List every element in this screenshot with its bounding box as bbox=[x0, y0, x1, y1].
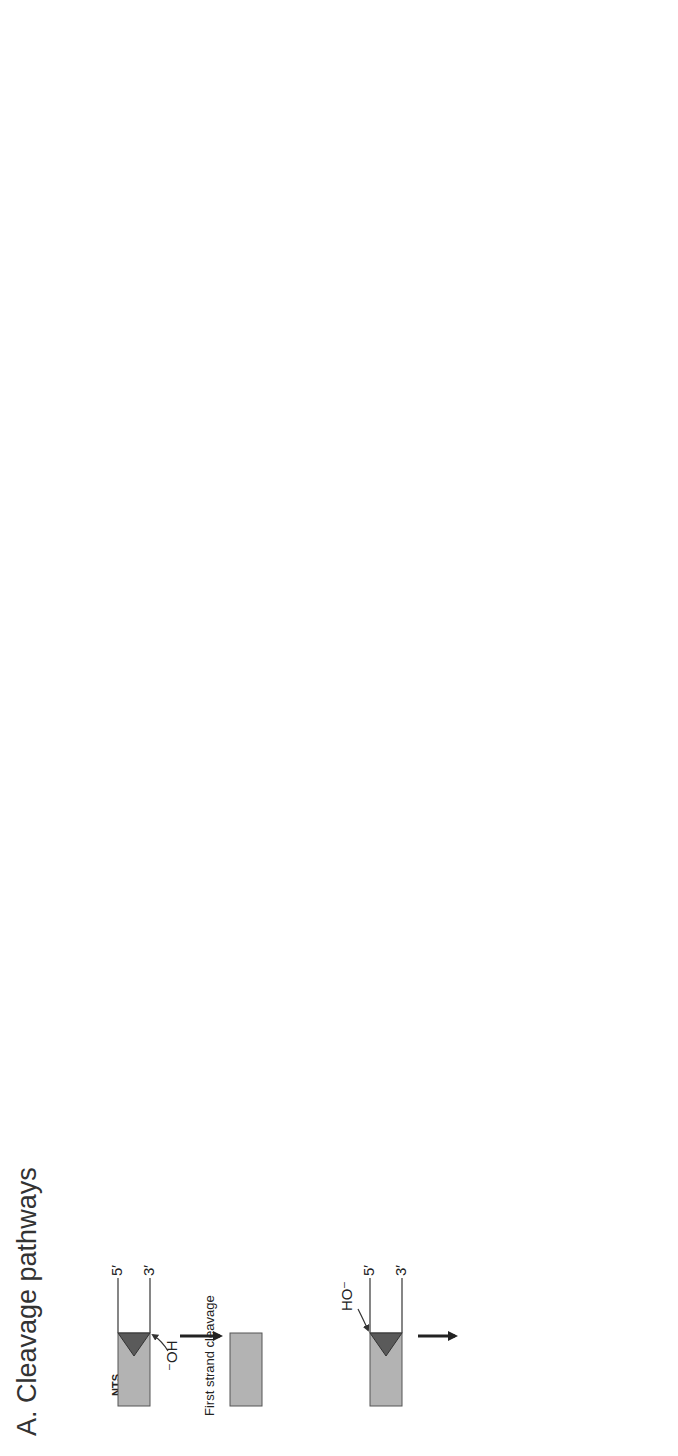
first-cleavage-label: First strand cleavage bbox=[202, 1295, 217, 1416]
panel-a-cleavage-pathways: A. Cleavage pathways NTS TS 5′ 3′ ⁻OH OR… bbox=[12, 1167, 455, 1436]
cleavage-initial-state: NTS TS 5′ 3′ ⁻OH bbox=[108, 1265, 180, 1406]
cleavage-alt-initial-state: 5′ 3′ HO⁻ bbox=[338, 1265, 409, 1406]
attack-arrow-icon bbox=[358, 1309, 368, 1330]
transposon-end-block bbox=[230, 1333, 262, 1406]
hydroxide-label: ⁻OH bbox=[163, 1341, 180, 1372]
five-prime-label: 5′ bbox=[360, 1265, 377, 1276]
panel-a-title: A. Cleavage pathways bbox=[12, 1167, 42, 1436]
three-prime-label: 3′ bbox=[392, 1265, 409, 1276]
five-prime-label: 5′ bbox=[108, 1265, 125, 1276]
three-prime-label: 3′ bbox=[140, 1265, 157, 1276]
cleavage-nicked-state bbox=[230, 1333, 262, 1406]
ho-minus-label: HO⁻ bbox=[338, 1281, 355, 1312]
diagram-canvas: A. Cleavage pathways NTS TS 5′ 3′ ⁻OH OR… bbox=[0, 0, 678, 1456]
